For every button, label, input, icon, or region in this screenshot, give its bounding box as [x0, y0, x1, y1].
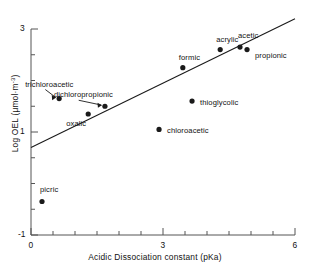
chart-canvas	[0, 0, 310, 269]
point-label: thioglycolic	[200, 98, 238, 107]
y-tick-label: 3	[20, 23, 25, 33]
data-point	[180, 65, 185, 70]
data-point	[156, 127, 161, 132]
point-label: picric	[40, 185, 58, 194]
y-axis-title-prefix: Log OEL (	[10, 113, 20, 153]
x-tick-label: 6	[293, 240, 298, 250]
data-point	[86, 111, 91, 116]
scatter-chart: picrictrichloroaceticoxalicdichloropropi…	[0, 0, 310, 269]
data-point	[237, 44, 242, 49]
point-label: formic	[179, 53, 200, 62]
y-tick-label: -1	[18, 229, 25, 239]
y-axis-title-unit: μmol·m	[10, 83, 20, 112]
point-label: trichloroacetic	[25, 80, 73, 89]
data-point	[218, 47, 223, 52]
y-axis-title: Log OEL (μmol·m-3)	[10, 65, 21, 161]
point-label: chloroacetic	[167, 126, 209, 135]
y-axis-title-exponent: -3	[10, 78, 16, 84]
chart-axes	[31, 29, 295, 235]
x-axis-title: Acidic Dissociation constant (pKa)	[0, 252, 310, 262]
data-point	[39, 199, 44, 204]
point-label: acetic	[238, 31, 258, 40]
point-label: oxalic	[66, 119, 86, 128]
y-tick-label: 1	[20, 126, 25, 136]
x-tick-label: 0	[29, 240, 34, 250]
data-point	[102, 104, 107, 109]
data-point	[189, 99, 194, 104]
data-point	[244, 47, 249, 52]
point-label: dichloropropionic	[54, 90, 113, 99]
y-axis-title-suffix: )	[10, 75, 20, 78]
point-label: acrylic	[216, 35, 238, 44]
point-label: propionic	[255, 51, 287, 60]
x-tick-label: 3	[161, 240, 166, 250]
